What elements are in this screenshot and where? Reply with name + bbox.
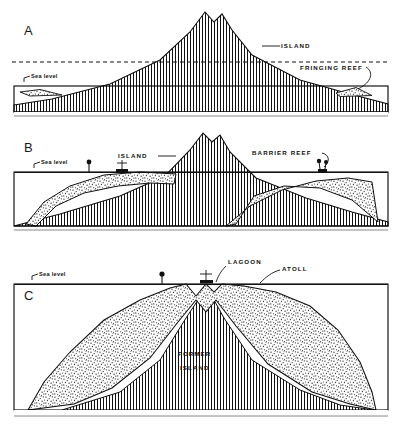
panel-c-lagoon-label: LAGOON [228, 258, 262, 265]
panel-a-fringing-reef-label: FRINGING REEF [300, 64, 363, 71]
panel-b-letter: B [24, 140, 33, 155]
panel-b-sealevel-label: Sea level [41, 159, 68, 165]
panel-c-sealevel-label: Sea level [39, 271, 66, 277]
panel-c-basement-fill [14, 410, 388, 416]
panel-c-former-island-label-line2: ISLAND [180, 364, 210, 371]
panel-c-atoll-label: ATOLL [282, 265, 308, 272]
panel-c-former-island-label-line1: FORMER [178, 350, 211, 357]
panel-a-island-label: ISLAND [281, 42, 311, 49]
panel-a-basement [14, 112, 388, 116]
panel-c-letter: C [24, 288, 34, 303]
panel-a-letter: A [24, 23, 33, 38]
panel-b-barrier-reef-label: BARRIER REEF [252, 149, 312, 156]
coral-reef-formation-diagram: A Sea level ISLAND FRINGING REEF B [0, 0, 402, 425]
panel-a-sealevel-label: Sea level [31, 73, 58, 79]
panel-b-island-label: ISLAND [118, 152, 148, 159]
